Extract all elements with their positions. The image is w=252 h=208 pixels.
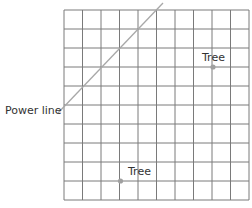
power-line: [58, 3, 163, 113]
power-line-label: Power line: [5, 105, 62, 117]
tree-point-1: [210, 64, 215, 69]
grid: [64, 10, 249, 200]
tree-point-2: [118, 178, 123, 183]
tree-label-2: Tree: [128, 166, 151, 178]
tree-label-1: Tree: [202, 52, 225, 64]
